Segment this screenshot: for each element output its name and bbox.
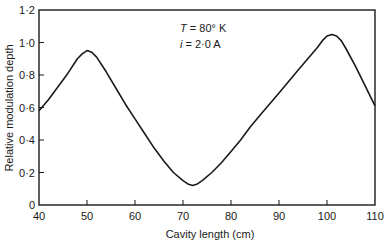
x-tick-label: 110: [366, 210, 384, 222]
y-tick-label: 0·6: [19, 102, 35, 114]
y-axis-label: Relative modulation depth: [3, 44, 15, 171]
x-axis-ticks: 405060708090100110: [33, 200, 384, 222]
x-tick-label: 50: [81, 210, 93, 222]
y-tick-label: 0·2: [19, 167, 35, 179]
line-chart: 405060708090100110 00·20·40·60·81·01·2 T…: [0, 0, 385, 244]
data-curve: [39, 34, 375, 185]
x-tick-label: 80: [225, 210, 237, 222]
x-tick-label: 60: [129, 210, 141, 222]
y-axis-ticks: 00·20·40·60·81·01·2: [19, 4, 44, 211]
y-tick-label: 1·2: [19, 4, 35, 16]
x-tick-label: 100: [318, 210, 336, 222]
y-tick-label: 0: [29, 199, 35, 211]
x-tick-label: 40: [33, 210, 45, 222]
annotation-block: T = 80° Ki = 2·0 A: [180, 22, 227, 50]
x-axis-label: Cavity length (cm): [166, 228, 255, 240]
annotation-text: T = 80° K: [180, 22, 227, 34]
annotation-text: i = 2·0 A: [180, 38, 221, 50]
y-tick-label: 0·4: [19, 134, 35, 146]
y-tick-label: 0·8: [19, 69, 35, 81]
x-tick-label: 70: [177, 210, 189, 222]
x-tick-label: 90: [273, 210, 285, 222]
y-tick-label: 1·0: [19, 37, 35, 49]
